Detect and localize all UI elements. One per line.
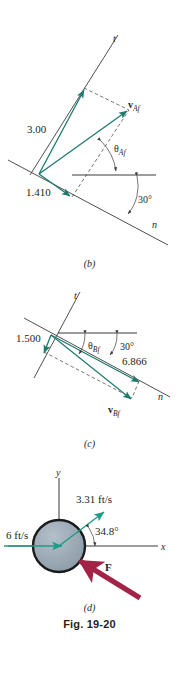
panel-d-diagram: x y 6 ft/s 3.31 ft/s 34.8° F <box>0 455 179 600</box>
label-angle-30-c: 30° <box>120 341 134 352</box>
axis-n-label-c: n <box>158 391 163 402</box>
axis-t-label-b: t <box>113 33 116 44</box>
angle-arc-30-c <box>110 334 117 355</box>
panel-d-svg: x y 6 ft/s 3.31 ft/s 34.8° F <box>0 455 179 600</box>
axis-t-line-b <box>30 35 118 175</box>
label-component-t-b: 3.00 <box>27 123 47 135</box>
label-angle-thetaBf-subscript: Bf <box>93 345 101 354</box>
vector-component-t-c <box>44 335 51 353</box>
label-component-n-c: 6.866 <box>122 355 147 367</box>
axis-n-line-c <box>24 318 170 397</box>
label-vector-vAf-subscript: Af <box>132 104 141 113</box>
label-force-F: F <box>105 561 112 573</box>
figure-19-20: t n 3.00 1.410 vAf θAf <box>0 0 179 675</box>
figure-title: Fig. 19-20 <box>0 618 179 630</box>
label-angle-thetaBf: θBf <box>88 340 100 354</box>
dashed-construction-top-b <box>84 88 129 110</box>
label-angle-thetaAf-subscript: Af <box>118 148 127 157</box>
caption-panel-d: (d) <box>0 602 179 613</box>
label-angle-30-b: 30° <box>138 194 152 205</box>
axis-y-label-d: y <box>55 467 61 478</box>
caption-panel-b: (b) <box>0 258 179 269</box>
label-velocity-out: 3.31 ft/s <box>76 493 112 505</box>
label-angle-thetaAf: θAf <box>114 143 126 157</box>
label-component-n-b: 1.410 <box>26 186 51 198</box>
panel-b-svg: t n 3.00 1.410 vAf θAf <box>0 0 179 250</box>
dashed-construction-side-c <box>44 352 132 398</box>
label-vector-vBf: vBf <box>108 404 121 418</box>
axis-n-label-b: n <box>152 219 157 230</box>
caption-panel-c: (c) <box>0 438 179 449</box>
dashed-construction-end-c <box>132 381 139 398</box>
panel-c-svg: t n 1.500 6.866 vBf θBf <box>0 280 179 435</box>
label-vector-vAf: vAf <box>128 99 141 113</box>
panel-b-diagram: t n 3.00 1.410 vAf θAf <box>0 0 179 250</box>
angle-arc-30-b <box>128 176 138 214</box>
axis-t-label-c: t <box>74 290 77 301</box>
axis-t-line-c <box>34 292 80 378</box>
label-component-t-c: 1.500 <box>16 332 41 344</box>
label-vector-vBf-subscript: Bf <box>113 409 121 418</box>
panel-c-diagram: t n 1.500 6.866 vBf θBf <box>0 280 179 435</box>
label-angle-34-8: 34.8° <box>95 525 119 537</box>
axis-x-label-d: x <box>160 541 166 552</box>
label-velocity-in: 6 ft/s <box>6 529 28 541</box>
